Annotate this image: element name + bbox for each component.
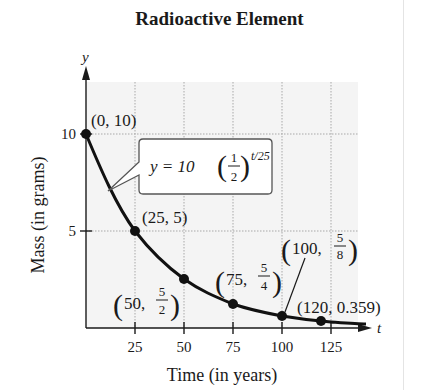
y-tick-labels: 5 10 [61,126,76,239]
svg-text:100,: 100, [292,239,322,258]
y-axis-variable: y [80,49,89,65]
y-axis-title: Mass (in grams) [28,157,49,274]
svg-text:4: 4 [261,278,268,293]
equation-lhs: y = 10 [148,157,195,176]
equation-den: 2 [231,169,238,184]
y-tick-5: 5 [69,223,77,239]
svg-text:5: 5 [159,284,166,299]
svg-text:8: 8 [337,247,344,262]
svg-text:(: ( [113,288,123,322]
x-tick-25: 25 [128,339,143,355]
equation-exponent: t/25 [251,149,270,163]
y-tick-10: 10 [61,126,76,142]
svg-text:): ) [272,265,282,299]
equation-num: 1 [231,150,238,165]
svg-text:5: 5 [337,230,344,245]
x-tick-125: 125 [320,339,343,355]
equation-paren-open: ( [217,149,227,183]
label-point-25-5: (25, 5) [142,208,187,227]
svg-text:(: ( [215,265,225,299]
point-50-2.5 [179,274,189,284]
x-axis-variable: t [377,320,382,336]
svg-text:50,: 50, [124,294,145,313]
svg-text:75,: 75, [226,270,247,289]
point-75-1.25 [228,299,238,309]
svg-text:): ) [170,288,180,322]
point-120-0.359 [316,316,326,326]
label-point-0-10: (0, 10) [91,111,136,130]
svg-text:2: 2 [159,302,166,317]
x-tick-75: 75 [226,339,241,355]
x-tick-labels: 25 50 75 100 125 [128,339,343,355]
label-point-120: (120, 0.359) [297,298,381,317]
equation-paren-close: ) [240,149,250,183]
svg-text:5: 5 [261,260,268,275]
point-0-10 [81,129,91,139]
x-tick-100: 100 [271,339,294,355]
chart-plot: y t 25 50 75 100 125 5 10 Time (in years… [0,0,421,390]
x-tick-50: 50 [177,339,192,355]
point-25-5 [130,226,140,236]
point-100-0.625 [277,311,287,321]
x-axis-title: Time (in years) [167,365,277,386]
svg-text:): ) [348,233,358,267]
svg-text:(: ( [281,233,291,267]
